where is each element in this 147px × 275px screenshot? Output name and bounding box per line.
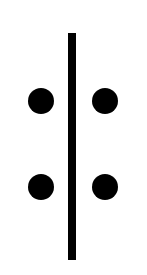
dot-top-right: top right dot bbox=[92, 88, 118, 114]
figure-canvas: Vertical bar flanked by four dots vertic… bbox=[0, 0, 147, 275]
dot-bottom-right: bottom right dot bbox=[92, 174, 118, 200]
dot-top-left: top left dot bbox=[28, 88, 54, 114]
dot-bottom-left: bottom left dot bbox=[28, 174, 54, 200]
vertical-bar: vertical bar bbox=[68, 33, 76, 260]
